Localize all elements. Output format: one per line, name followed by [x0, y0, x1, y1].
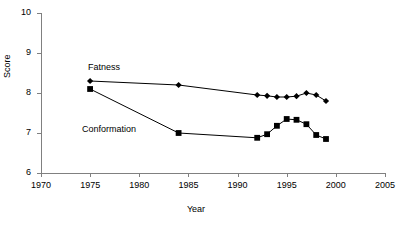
y-axis-title: Score [2, 54, 12, 78]
data-point-square [323, 136, 329, 142]
y-tick-label: 7 [13, 127, 31, 137]
data-point-diamond [303, 90, 309, 96]
series-annotation-conformation: Conformation [82, 124, 136, 134]
x-tick-label: 1975 [70, 180, 110, 190]
data-point-square [264, 131, 270, 137]
data-point-square [304, 121, 310, 127]
x-axis-title: Year [187, 204, 205, 214]
data-point-square [254, 135, 260, 141]
y-tick-label: 6 [13, 167, 31, 177]
data-point-diamond [176, 82, 182, 88]
y-tick-label: 9 [13, 47, 31, 57]
data-point-diamond [284, 94, 290, 100]
chart-plot-area [0, 0, 398, 227]
x-tick-label: 1985 [168, 180, 208, 190]
y-tick-label: 8 [13, 87, 31, 97]
series-annotation-fatness: Fatness [88, 62, 120, 72]
x-tick-label: 1995 [267, 180, 307, 190]
series-fatness [87, 78, 329, 104]
x-tick-label: 1970 [21, 180, 61, 190]
data-point-diamond [323, 98, 329, 104]
data-point-diamond [293, 93, 299, 99]
data-point-square [284, 116, 290, 122]
y-tick-label: 10 [13, 7, 31, 17]
x-tick-label: 2005 [365, 180, 398, 190]
x-tick-label: 2000 [316, 180, 356, 190]
data-point-square [274, 123, 280, 129]
data-point-diamond [87, 78, 93, 84]
chart-container: Score Year Fatness Conformation 678910 1… [0, 0, 398, 227]
data-point-diamond [274, 94, 280, 100]
x-tick-label: 1990 [218, 180, 258, 190]
data-point-square [313, 132, 319, 138]
data-point-diamond [254, 92, 260, 98]
data-point-square [176, 130, 182, 136]
data-point-square [294, 117, 300, 123]
series-line [90, 81, 326, 101]
data-point-diamond [313, 92, 319, 98]
axis-group [37, 13, 386, 177]
x-tick-label: 1980 [119, 180, 159, 190]
data-point-diamond [264, 93, 270, 99]
data-point-square [87, 86, 93, 92]
